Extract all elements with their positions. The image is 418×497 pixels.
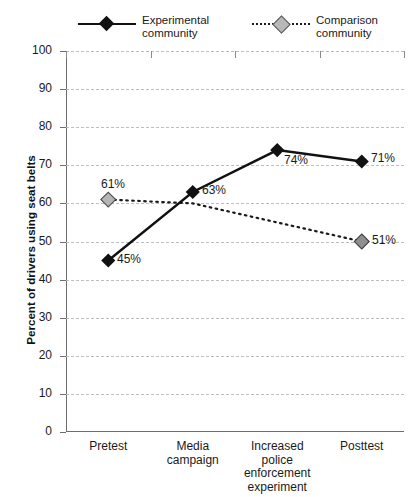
comparison-line: [108, 200, 362, 242]
y-tick-label-20: 20: [18, 348, 52, 362]
comparison-markers: [101, 192, 369, 249]
diamond-marker-icon: [270, 143, 284, 157]
y-tick-label-50: 50: [18, 234, 52, 248]
data-label-exp-posttest: 71%: [371, 151, 395, 165]
y-tick-label-90: 90: [18, 81, 52, 95]
chart-legend: Experimental community Comparison commun…: [0, 6, 418, 40]
legend-item-experimental: Experimental community: [78, 14, 209, 39]
diamond-marker-light-icon: [101, 192, 116, 207]
experimental-line: [108, 150, 362, 260]
data-label-cmp-posttest: 51%: [372, 233, 396, 247]
legend-sample-comparison: [252, 14, 310, 34]
legend-item-comparison: Comparison community: [252, 14, 378, 39]
legend-sample-experimental: [78, 14, 136, 34]
x-tick-label-media: Media campaign: [151, 440, 236, 467]
y-tick-label-70: 70: [18, 157, 52, 171]
data-label-cmp-pretest: 61%: [101, 177, 125, 191]
x-tick-4: [404, 51, 405, 58]
diamond-marker-light-icon: [272, 15, 290, 33]
y-tick-label-100: 100: [18, 43, 52, 57]
chart-figure: Experimental community Comparison commun…: [0, 0, 418, 497]
legend-label-comparison: Comparison community: [310, 14, 378, 39]
data-label-exp-increased: 74%: [284, 153, 308, 167]
diamond-marker-light-icon: [354, 234, 369, 249]
x-tick-label-posttest: Posttest: [320, 440, 405, 454]
plot-area: 100 90 80 70 60 50 40 30 20 10 0 Pretest…: [66, 51, 404, 432]
y-tick-label-30: 30: [18, 310, 52, 324]
y-tick-0: [60, 432, 66, 433]
y-tick-label-10: 10: [18, 386, 52, 400]
y-tick-label-40: 40: [18, 272, 52, 286]
y-tick-label-0: 0: [18, 424, 52, 438]
data-label-exp-pretest: 45%: [117, 252, 141, 266]
x-tick-label-pretest: Pretest: [66, 440, 151, 454]
x-tick-label-increased: Increased police enforcement experiment: [235, 440, 320, 494]
legend-label-experimental: Experimental community: [136, 14, 209, 39]
experimental-markers: [101, 143, 369, 268]
data-label-exp-media: 63%: [202, 183, 226, 197]
series-plot: [66, 51, 404, 432]
diamond-marker-icon: [99, 16, 115, 32]
y-tick-label-60: 60: [18, 195, 52, 209]
y-tick-label-80: 80: [18, 119, 52, 133]
y-axis-title: Percent of drivers using seat belts: [22, 140, 38, 360]
diamond-marker-icon: [355, 154, 369, 168]
